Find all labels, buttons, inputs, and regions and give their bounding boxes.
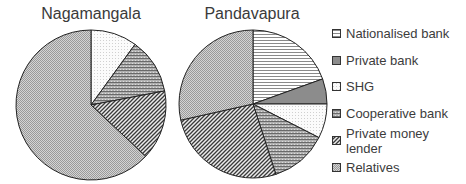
legend-item-private-bank: Private bank xyxy=(332,47,466,74)
legend-label: SHG xyxy=(346,79,374,94)
legend-item-cooperative-bank: Cooperative bank xyxy=(332,100,466,127)
legend-swatch-diagonal-icon xyxy=(332,136,341,145)
legend-label: Cooperative bank xyxy=(346,106,448,121)
legend-swatch-checker-icon xyxy=(332,163,341,172)
legend-item-private-money-lender: Private money lender xyxy=(332,127,466,154)
legend-swatch-hlines-icon xyxy=(332,29,341,38)
legend-swatch-dense-icon xyxy=(332,109,341,118)
legend: Nationalised bank Private bank SHG Coope… xyxy=(332,20,466,181)
legend-label: Nationalised bank xyxy=(346,26,449,41)
legend-swatch-solid-icon xyxy=(332,56,341,65)
legend-item-shg: SHG xyxy=(332,74,466,101)
legend-label: Private money lender xyxy=(346,126,466,156)
legend-label: Relatives xyxy=(346,160,399,175)
legend-item-relatives: Relatives xyxy=(332,154,466,181)
legend-swatch-dots-icon xyxy=(332,82,341,91)
legend-item-nationalised-bank: Nationalised bank xyxy=(332,20,466,47)
pie-slice-relatives xyxy=(179,30,253,120)
pie-pandavapura xyxy=(179,30,327,178)
pie-nagamangala xyxy=(16,30,166,180)
legend-label: Private bank xyxy=(346,53,418,68)
